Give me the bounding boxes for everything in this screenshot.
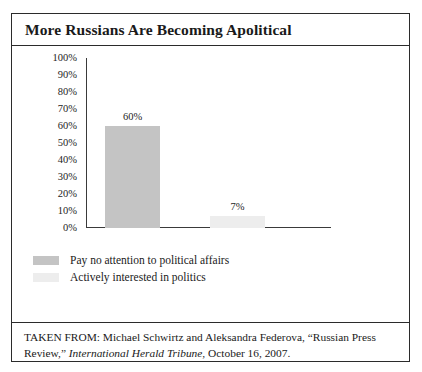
legend-swatch [33,256,59,265]
legend-item: Pay no attention to political affairs [33,252,409,269]
bar [105,126,160,228]
bar-series: 60%7% [86,58,331,228]
chart-figure: More Russians Are Becoming Apolitical 10… [11,13,410,362]
y-axis-tick-label: 100% [53,53,78,64]
bar-group: 60% [105,58,160,228]
chart-legend: Pay no attention to political affairsAct… [12,246,409,286]
y-axis-tick-label: 90% [58,70,77,81]
y-axis-tick-label: 40% [58,155,77,166]
y-axis-tick-label: 60% [58,121,77,132]
legend-item: Actively interested in politics [33,269,409,286]
y-axis-tick-label: 30% [58,172,77,183]
legend-label: Actively interested in politics [70,272,206,284]
source-suffix: , October 16, 2007. [202,347,290,359]
bar-value-label: 60% [105,112,160,123]
y-axis-tick-label: 10% [58,206,77,217]
y-axis-tick-label: 70% [58,104,77,115]
bar-group: 7% [210,58,265,228]
y-axis-tick-label: 80% [58,87,77,98]
plot-area: 100%90%80%70%60%50%40%30%20%10%0% 60%7% [12,46,409,246]
source-note-text: TAKEN FROM: Michael Schwirtz and Aleksan… [24,329,399,361]
bar-value-label: 7% [210,202,265,213]
bar [210,216,265,228]
source-note: TAKEN FROM: Michael Schwirtz and Aleksan… [12,322,409,361]
source-publication: International Herald Tribune [69,347,203,359]
chart-title-bar: More Russians Are Becoming Apolitical [12,14,409,46]
layout-spacer [12,286,409,322]
y-axis-tick-label: 20% [58,189,77,200]
legend-swatch [33,273,59,282]
y-axis-tick-label: 50% [58,138,77,149]
y-axis-tick-label: 0% [63,223,77,234]
legend-label: Pay no attention to political affairs [70,255,229,267]
page-title: More Russians Are Becoming Apolitical [25,22,292,38]
y-axis: 100%90%80%70%60%50%40%30%20%10%0% [12,46,86,246]
